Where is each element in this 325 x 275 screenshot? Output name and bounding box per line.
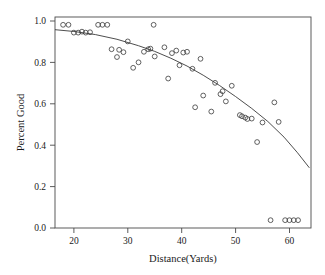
data-point — [115, 55, 120, 60]
data-point — [109, 47, 114, 52]
data-point — [201, 93, 206, 98]
y-tick-label-5: 1.0 — [34, 16, 46, 26]
x-tick-label-4: 60 — [285, 236, 295, 246]
data-point — [177, 63, 182, 68]
y-tick-label-2: 0.4 — [34, 141, 46, 151]
data-point — [193, 105, 198, 110]
y-tick-label-4: 0.8 — [34, 58, 46, 68]
data-points-group — [61, 22, 301, 222]
data-point — [152, 54, 157, 59]
x-tick-label-0: 20 — [69, 236, 79, 246]
data-point — [209, 109, 214, 114]
data-point — [255, 140, 260, 145]
data-point — [121, 50, 126, 55]
scatter-plot-figure: 0.0 0.2 0.4 0.6 0.8 1.0 20 30 40 50 60 D… — [0, 0, 325, 275]
x-tick-label-3: 50 — [231, 236, 241, 246]
chart-canvas: 0.0 0.2 0.4 0.6 0.8 1.0 20 30 40 50 60 D… — [0, 0, 325, 275]
data-point — [260, 120, 265, 125]
data-point — [276, 120, 281, 125]
y-tick-label-1: 0.2 — [34, 182, 46, 192]
x-tick-label-2: 40 — [177, 236, 187, 246]
x-axis-title: Distance(Yards) — [149, 253, 217, 265]
x-tick-label-1: 30 — [123, 236, 133, 246]
data-point — [105, 22, 110, 27]
y-axis-ticks — [50, 21, 55, 228]
x-axis-tick-labels: 20 30 40 50 60 — [69, 236, 294, 246]
y-tick-label-3: 0.6 — [34, 99, 46, 109]
data-point — [66, 22, 71, 27]
data-point — [268, 218, 273, 223]
data-point — [125, 39, 130, 44]
y-axis-title: Percent Good — [15, 93, 26, 151]
data-point — [136, 60, 141, 65]
data-point — [151, 22, 156, 27]
data-point — [131, 65, 136, 70]
x-axis-ticks — [74, 228, 290, 233]
data-point — [61, 22, 66, 27]
data-point — [272, 100, 277, 105]
data-point — [223, 99, 228, 104]
data-point — [198, 56, 203, 61]
data-point — [174, 48, 179, 53]
data-point — [162, 45, 167, 50]
plot-frame — [55, 17, 311, 228]
y-axis-tick-labels: 0.0 0.2 0.4 0.6 0.8 1.0 — [34, 16, 46, 233]
data-point — [166, 76, 171, 81]
data-point — [229, 83, 234, 88]
y-tick-label-0: 0.0 — [34, 223, 46, 233]
